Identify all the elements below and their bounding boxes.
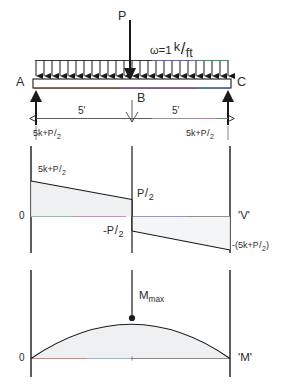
shear-peak-left-label: 5k+P/2	[38, 164, 66, 174]
shear-right-end-fraction: P/2	[253, 240, 266, 250]
reaction-left-label: 5k+P/2	[33, 128, 61, 138]
shear-peak-left-den: 2	[62, 169, 66, 176]
node-label-a: A	[16, 76, 24, 89]
beam-diagram-canvas: P ω=1k/ft A C B 5' 5' 5k+P/2 5k+P/2 5k+P…	[0, 0, 292, 390]
shear-right-end-lead: -(5k+	[232, 240, 253, 250]
moment-zero-label: 0	[19, 353, 25, 363]
shear-peak-left-lead: 5k+	[38, 164, 53, 174]
node-label-c: C	[237, 76, 246, 89]
point-load-label: P	[118, 10, 126, 23]
omega-unit-denominator: ft	[186, 46, 193, 60]
dimension-left-label: 5'	[78, 106, 85, 116]
distributed-load-label: ω=1k/ft	[150, 41, 193, 58]
reaction-right-lead: 5k+	[186, 128, 201, 138]
moment-peak-marker	[129, 315, 135, 321]
shear-right-end-tail: )	[266, 240, 269, 250]
moment-diagram-group	[31, 270, 230, 377]
dimension-right-label: 5'	[172, 106, 179, 116]
shear-mid-top-fraction: P/2	[137, 187, 154, 200]
omega-equals: =1	[159, 44, 172, 56]
shear-right-end-label: -(5k+P/2)	[232, 240, 269, 250]
omega-symbol: ω	[150, 44, 159, 56]
reaction-left-den: 2	[57, 133, 61, 140]
shear-mid-top-den: 2	[149, 192, 154, 202]
point-load-arrow	[124, 20, 136, 81]
reaction-left-lead: 5k+	[33, 128, 48, 138]
shear-mid-bottom-den: 2	[118, 229, 123, 239]
shear-zero-label: 0	[19, 211, 25, 221]
reaction-right-fraction: P/2	[201, 128, 214, 138]
moment-diagram-name: 'M'	[238, 352, 252, 364]
node-label-b: B	[137, 92, 145, 105]
shear-diagram-name: 'V'	[238, 210, 250, 222]
shear-mid-bottom-label: -P/2	[103, 224, 123, 237]
shear-mid-bottom-fraction: P/2	[107, 224, 124, 237]
shear-mid-top-label: P/2	[137, 187, 154, 200]
beam-member	[33, 79, 231, 88]
shear-right-end-den: 2	[262, 245, 266, 252]
reaction-left-fraction: P/2	[48, 128, 61, 138]
reaction-right-den: 2	[210, 133, 214, 140]
moment-peak-label: Mmax	[139, 290, 164, 302]
moment-peak-base: M	[139, 289, 149, 301]
shear-peak-left-fraction: P/2	[53, 164, 66, 174]
omega-unit: k/ft	[174, 41, 193, 58]
moment-peak-subscript: max	[149, 295, 165, 304]
reaction-right-label: 5k+P/2	[186, 128, 214, 138]
omega-unit-numerator: k	[174, 39, 180, 54]
